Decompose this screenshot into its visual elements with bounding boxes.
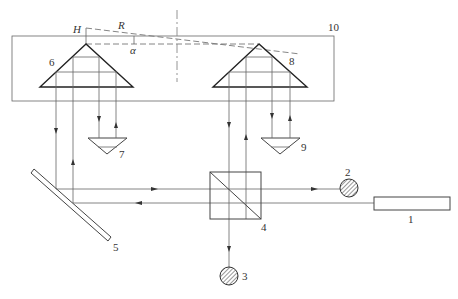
label-detector-3: 3 (242, 270, 248, 282)
beams-right (227, 57, 292, 267)
label-prism-6: 6 (49, 56, 55, 68)
interferometer-diagram: 10 H R α 6 8 7 9 (0, 0, 458, 299)
label-detector-2: 2 (345, 166, 351, 178)
laser-1: 1 (374, 197, 450, 225)
detector-2: 2 (340, 166, 358, 197)
label-laser-1: 1 (408, 213, 414, 225)
label-prism-7: 7 (119, 148, 125, 160)
label-alpha: α (130, 44, 136, 56)
prism-8: 8 (213, 44, 307, 87)
label-frame: 10 (328, 21, 340, 33)
label-R: R (117, 19, 125, 31)
tilt-geometry: H R α (72, 10, 300, 82)
beams-left (54, 57, 118, 203)
label-prism-8: 8 (289, 55, 295, 67)
label-beam-splitter-4: 4 (261, 221, 267, 233)
label-H: H (72, 23, 82, 35)
label-mirror-5: 5 (113, 241, 119, 253)
detector-3: 3 (220, 267, 248, 285)
beams-horizontal (56, 187, 374, 205)
beam-splitter-4: 4 (210, 172, 267, 233)
prism-7: 7 (88, 138, 127, 160)
label-prism-9: 9 (301, 141, 307, 153)
mirror-5: 5 (31, 169, 119, 253)
prism-6: 6 (40, 44, 133, 87)
prism-9: 9 (261, 138, 307, 154)
